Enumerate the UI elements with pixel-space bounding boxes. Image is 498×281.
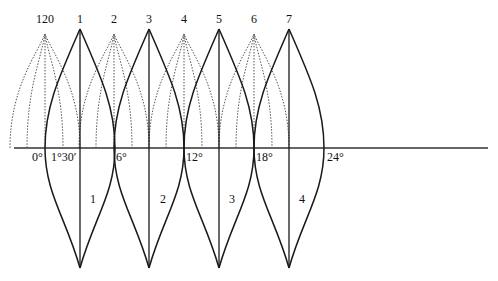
- degree-label-6: 6°: [116, 151, 127, 163]
- degree-label-12: 12°: [186, 151, 203, 163]
- top-label-6: 6: [251, 13, 257, 25]
- top-label-7: 7: [286, 13, 292, 25]
- top-label-3: 3: [146, 13, 152, 25]
- top-label-1: 1: [77, 13, 83, 25]
- degree-label-18: 18°: [256, 151, 273, 163]
- gore-label-1: 1: [90, 193, 96, 205]
- degree-label-0: 0°: [32, 151, 43, 163]
- gore-label-3: 3: [229, 193, 235, 205]
- gore-diagram: 120 1 2 3 4 5 6 7 0° 1°30′ 6° 12° 18° 24…: [0, 0, 498, 281]
- diagram-canvas: [0, 0, 498, 281]
- degree-label-24: 24°: [327, 151, 344, 163]
- top-label-120: 120: [36, 13, 54, 25]
- top-label-4: 4: [181, 13, 187, 25]
- gore-label-2: 2: [160, 193, 166, 205]
- top-label-2: 2: [111, 13, 117, 25]
- degree-label-1-30: 1°30′: [51, 151, 76, 163]
- gore-label-4: 4: [299, 193, 305, 205]
- top-label-5: 5: [216, 13, 222, 25]
